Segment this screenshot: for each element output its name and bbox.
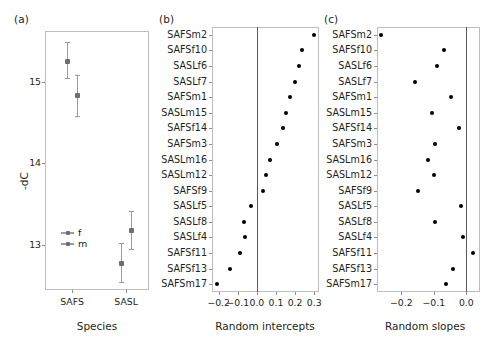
category-label: SAFSm3 xyxy=(167,138,207,149)
category-label: SASLm15 xyxy=(326,107,372,118)
row-tick xyxy=(209,206,212,207)
category-label: SAFSm1 xyxy=(167,91,207,102)
row-tick xyxy=(374,50,377,51)
category-label: SASLf4 xyxy=(173,231,207,242)
category-label: SASLf5 xyxy=(338,200,372,211)
data-point xyxy=(215,282,219,286)
row-tick xyxy=(374,113,377,114)
data-point-f xyxy=(65,59,70,64)
category-label: SASLf4 xyxy=(338,231,372,242)
row-tick xyxy=(209,50,212,51)
category-label: SASLm16 xyxy=(161,154,207,165)
category-label: SAFSm2 xyxy=(167,29,207,40)
row-tick xyxy=(374,253,377,254)
x-tick-label: −0.1 xyxy=(418,297,450,308)
category-label: SASLf8 xyxy=(338,216,372,227)
row-tick xyxy=(209,113,212,114)
category-label: SAFSf11 xyxy=(332,247,372,258)
error-bar-cap-upper xyxy=(129,211,134,212)
data-point xyxy=(430,111,434,115)
data-point xyxy=(433,220,437,224)
category-label: SASLf7 xyxy=(173,76,207,87)
row-tick xyxy=(374,284,377,285)
panel-b-x-axis-title: Random intercepts xyxy=(200,320,330,332)
category-label: SAFSf14 xyxy=(332,122,372,133)
panel-c: (c) Random slopes SAFSm2SAFSf10SASLf6SAS… xyxy=(320,0,488,342)
row-tick xyxy=(374,175,377,176)
row-tick xyxy=(209,82,212,83)
row-tick xyxy=(209,191,212,192)
data-point xyxy=(449,95,453,99)
row-tick xyxy=(209,253,212,254)
panel-a: (a) -dC Species 131415SAFSSASL fm xyxy=(0,0,160,342)
row-tick xyxy=(374,66,377,67)
row-tick xyxy=(209,35,212,36)
zero-reference-line xyxy=(466,27,467,292)
row-tick xyxy=(209,160,212,161)
category-label: SASLm16 xyxy=(326,154,372,165)
category-label: SASLm12 xyxy=(161,169,207,180)
data-point xyxy=(228,267,232,271)
error-bar-cap-upper xyxy=(75,75,80,76)
category-label: SAFSf10 xyxy=(332,44,372,55)
panel-a-x-axis-title: Species xyxy=(45,320,149,332)
data-point xyxy=(238,251,242,255)
row-tick xyxy=(374,237,377,238)
panel-a-x-tick-label: SASL xyxy=(104,296,148,307)
data-point xyxy=(261,189,265,193)
panel-a-plot-area xyxy=(45,31,149,290)
data-point xyxy=(242,220,246,224)
error-bar-cap-upper xyxy=(119,243,124,244)
panel-b: (b) Random intercepts SAFSm2SAFSf10SASLf… xyxy=(155,0,325,342)
category-label: SAFSf13 xyxy=(167,263,207,274)
category-label: SAFSm1 xyxy=(332,91,372,102)
data-point xyxy=(312,33,316,37)
x-tick xyxy=(238,292,239,295)
category-label: SAFSm2 xyxy=(332,29,372,40)
legend-label: m xyxy=(78,238,87,249)
panel-a-y-axis-title: -dC xyxy=(18,172,30,190)
x-tick xyxy=(434,292,435,295)
panel-a-x-tick xyxy=(72,290,73,293)
error-bar-cap-lower xyxy=(129,249,134,250)
legend-marker-icon xyxy=(61,232,74,234)
data-point-f xyxy=(119,261,124,266)
category-label: SAFSf14 xyxy=(167,122,207,133)
figure-root: (a) -dC Species 131415SAFSSASL fm (b) Ra… xyxy=(0,0,488,342)
data-point xyxy=(288,95,292,99)
row-tick xyxy=(374,160,377,161)
panel-b-label: (b) xyxy=(159,13,174,25)
row-tick xyxy=(209,144,212,145)
x-tick xyxy=(466,292,467,295)
category-label: SASLf6 xyxy=(338,60,372,71)
row-tick xyxy=(374,128,377,129)
error-bar-cap-upper xyxy=(65,42,70,43)
panel-a-x-tick-label: SAFS xyxy=(50,296,94,307)
row-tick xyxy=(209,97,212,98)
data-point xyxy=(471,251,475,255)
data-point xyxy=(432,173,436,177)
category-label: SAFSm17 xyxy=(161,278,207,289)
x-tick xyxy=(276,292,277,295)
row-tick xyxy=(374,144,377,145)
row-tick xyxy=(374,82,377,83)
panel-c-label: (c) xyxy=(324,13,338,25)
error-bar-cap-lower xyxy=(65,78,70,79)
category-label: SASLf7 xyxy=(338,76,372,87)
data-point xyxy=(379,33,383,37)
panel-b-plot-area xyxy=(212,27,319,292)
category-label: SAFSf9 xyxy=(173,185,207,196)
panel-a-y-tick xyxy=(42,82,45,83)
x-tick xyxy=(314,292,315,295)
data-point xyxy=(426,158,430,162)
row-tick xyxy=(374,222,377,223)
x-tick xyxy=(219,292,220,295)
panel-a-x-tick xyxy=(126,290,127,293)
category-label: SAFSf10 xyxy=(167,44,207,55)
zero-reference-line xyxy=(257,27,258,292)
category-label: SASLm12 xyxy=(326,169,372,180)
data-point xyxy=(413,80,417,84)
data-point-m xyxy=(75,93,80,98)
row-tick xyxy=(209,66,212,67)
category-label: SASLf5 xyxy=(173,200,207,211)
